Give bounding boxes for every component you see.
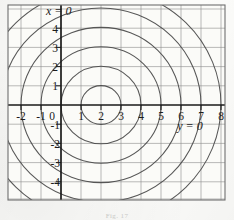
- vertical-axis-label: x = 0: [45, 4, 71, 18]
- y-tick-label: 1: [52, 80, 58, 92]
- x-tick-label: 5: [158, 110, 164, 122]
- y-tick-label: -2: [50, 138, 60, 150]
- x-tick-label: 8: [218, 110, 224, 122]
- contour-plot: -2 -1 0 1 2 3 4 5 6 7 8 4 3 2 1 -1 -2 -3…: [0, 0, 234, 220]
- y-tick-label: 2: [52, 61, 58, 73]
- x-tick-label: -2: [16, 110, 26, 122]
- figure-container: -2 -1 0 1 2 3 4 5 6 7 8 4 3 2 1 -1 -2 -3…: [0, 0, 234, 220]
- y-tick-label: 3: [52, 42, 58, 54]
- figure-caption: Fig. 17: [0, 212, 234, 220]
- x-tick-label: 4: [138, 110, 144, 122]
- x-tick-label: 1: [78, 110, 84, 122]
- y-tick-label: -3: [50, 157, 60, 169]
- x-tick-label: 2: [98, 110, 104, 122]
- y-tick-label: -4: [50, 176, 60, 188]
- x-tick-label: 3: [118, 110, 124, 122]
- y-tick-label: 4: [52, 23, 58, 35]
- horizontal-axis-label: y = 0: [176, 119, 202, 133]
- y-tick-label: -1: [50, 119, 60, 131]
- x-tick-label: -1: [36, 110, 46, 122]
